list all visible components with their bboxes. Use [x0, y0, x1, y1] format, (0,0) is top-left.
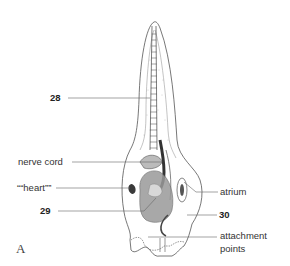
- label-30: 30: [219, 209, 230, 220]
- leader-lines: [56, 98, 218, 237]
- organism-illustration: [0, 0, 290, 266]
- tunicate-larva-diagram: 28 nerve cord ““heart”” 29 atrium 30 att…: [0, 0, 290, 266]
- label-heart: ““heart””: [17, 182, 51, 193]
- label-atrium: atrium: [220, 186, 246, 197]
- label-attachment-line1: attachment: [220, 230, 267, 241]
- label-attachment-line2: points: [220, 243, 245, 254]
- label-nerve-cord: nerve cord: [18, 156, 63, 167]
- label-28: 28: [50, 92, 61, 103]
- label-29: 29: [40, 205, 51, 216]
- notochord: [150, 26, 157, 150]
- tail-inner-outline: [140, 30, 176, 158]
- panel-letter: A: [16, 241, 25, 257]
- heart-shape: [127, 183, 136, 194]
- attachment-base: [131, 237, 184, 250]
